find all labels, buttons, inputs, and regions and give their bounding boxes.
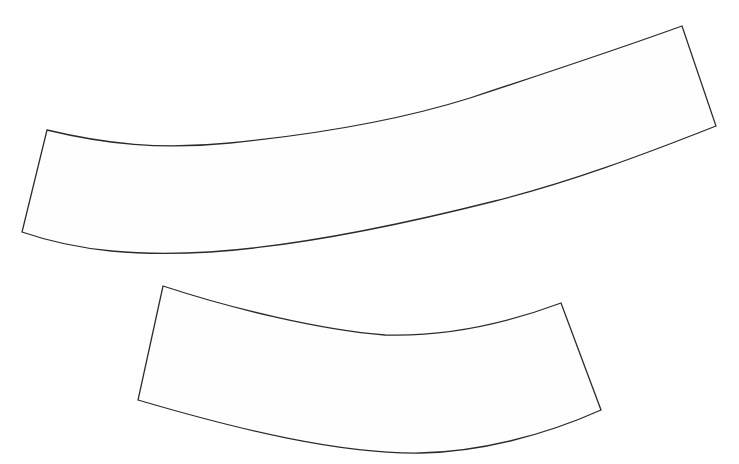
line-drawing bbox=[0, 0, 739, 464]
lower-curved-band-shape bbox=[138, 286, 601, 453]
drawing-canvas bbox=[0, 0, 739, 464]
upper-curved-band-shape bbox=[22, 26, 716, 253]
